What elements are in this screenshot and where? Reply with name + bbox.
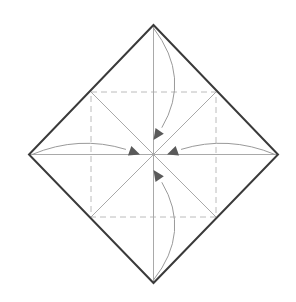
origami-fold-diagram-svg: Origami fold step diagram Square sheet r…: [0, 0, 296, 302]
diagram-background: [0, 0, 296, 302]
origami-diagram: Origami fold step diagram Square sheet r…: [0, 0, 296, 302]
